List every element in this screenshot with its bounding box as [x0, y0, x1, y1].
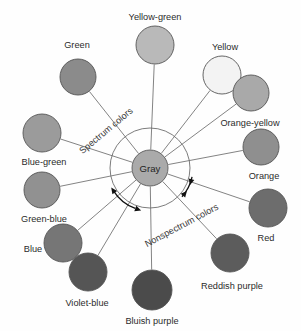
color-node-orange[interactable]: Orange [243, 129, 279, 181]
label-green-blue: Green-blue [21, 214, 67, 224]
swatch-orange-yellow[interactable] [233, 75, 269, 111]
label-bluish-purple: Bluish purple [125, 316, 178, 326]
color-circle-canvas: Yellow-greenYellowOrange-yellowOrangeRed… [0, 0, 301, 331]
swatch-green[interactable] [60, 59, 96, 95]
swatch-yellow-green[interactable] [136, 26, 174, 64]
label-reddish-purple: Reddish purple [201, 281, 263, 291]
swatch-violet-blue[interactable] [69, 253, 107, 291]
label-orange: Orange [249, 171, 280, 181]
label-yellow: Yellow [212, 42, 239, 52]
swatch-bluish-purple[interactable] [132, 270, 172, 310]
label-yellow-green: Yellow-green [129, 12, 182, 22]
swatch-reddish-purple[interactable] [211, 234, 249, 272]
color-node-violet-blue[interactable]: Violet-blue [65, 253, 108, 308]
color-circle-diagram: Yellow-greenYellowOrange-yellowOrangeRed… [0, 0, 301, 331]
center-gray-label: Gray [140, 163, 161, 174]
swatch-orange[interactable] [243, 129, 279, 165]
label-red: Red [258, 233, 275, 243]
label-violet-blue: Violet-blue [65, 298, 108, 308]
label-orange-yellow: Orange-yellow [220, 118, 280, 128]
swatch-blue[interactable] [44, 224, 82, 262]
label-blue-green: Blue-green [22, 157, 67, 167]
label-blue: Blue [24, 244, 42, 254]
swatch-green-blue[interactable] [24, 172, 60, 208]
swatch-red[interactable] [249, 189, 287, 227]
swatch-blue-green[interactable] [23, 114, 61, 152]
label-green: Green [64, 40, 90, 50]
